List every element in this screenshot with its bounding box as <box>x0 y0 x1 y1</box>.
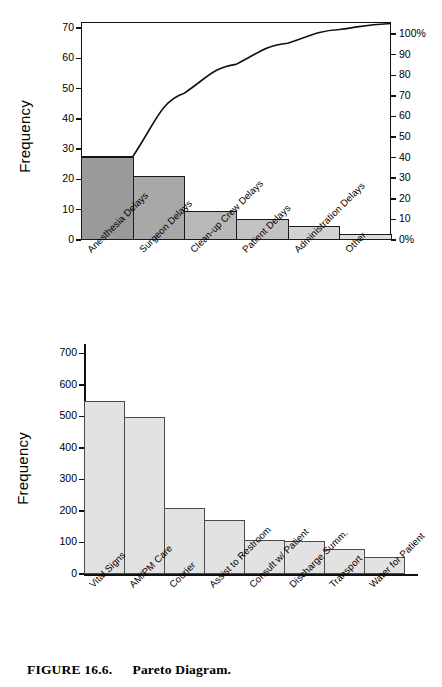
chart2-left-tick-label: 700 <box>42 347 77 357</box>
chart1-right-tick-label: 100% <box>399 28 439 38</box>
chart1-left-tick-label: 10 <box>43 204 74 214</box>
chart1-right-tick-label: 60 <box>399 110 439 120</box>
chart-pareto-nursing-requests: Frequency 0100200300400500600700 Vital S… <box>0 320 442 660</box>
chart-pareto-or-delays: Frequency 010203040506070 0%102030405060… <box>0 0 442 320</box>
chart1-right-tick-mark <box>391 157 396 159</box>
chart1-left-tick-label: 70 <box>43 22 74 32</box>
chart1-right-tick-label: 70 <box>399 90 439 100</box>
chart1-right-tick-label: 0% <box>399 234 439 244</box>
chart2-left-tick-label: 0 <box>42 568 77 578</box>
chart1-right-tick-mark <box>391 95 396 97</box>
chart1-right-tick-mark <box>391 219 396 221</box>
chart2-left-tick-label: 200 <box>42 505 77 515</box>
chart1-y-axis-label: Frequency <box>16 87 33 187</box>
chart1-right-tick-mark <box>391 177 396 179</box>
chart2-left-tick-label: 500 <box>42 410 77 420</box>
chart2-y-axis-label: Frequency <box>14 419 31 519</box>
chart1-left-tick-label: 0 <box>43 234 74 244</box>
chart1-right-tick-label: 40 <box>399 152 439 162</box>
chart2-left-tick-mark <box>79 384 84 386</box>
chart1-left-tick-label: 30 <box>43 143 74 153</box>
figure-caption: FIGURE 16.6. Pareto Diagram. <box>27 662 231 678</box>
chart1-left-tick-label: 40 <box>43 113 74 123</box>
figure-title: Pareto Diagram. <box>132 662 231 677</box>
chart2-left-tick-label: 600 <box>42 379 77 389</box>
pareto-figure: Frequency 010203040506070 0%102030405060… <box>0 0 442 687</box>
chart1-cumulative-curve-path <box>81 24 391 157</box>
chart1-right-tick-label: 80 <box>399 69 439 79</box>
chart1-right-tick-mark <box>391 75 396 77</box>
chart1-right-tick-label: 20 <box>399 193 439 203</box>
chart1-right-tick-label: 90 <box>399 49 439 59</box>
figure-number: FIGURE 16.6. <box>27 662 112 677</box>
chart2-left-tick-label: 100 <box>42 536 77 546</box>
chart1-left-tick-label: 20 <box>43 173 74 183</box>
chart1-right-tick-mark <box>391 33 396 35</box>
chart2-left-tick-mark <box>79 353 84 355</box>
chart1-left-tick-label: 50 <box>43 83 74 93</box>
chart1-right-tick-mark <box>391 54 396 56</box>
chart1-right-tick-label: 50 <box>399 131 439 141</box>
chart2-bar <box>84 401 125 574</box>
chart1-right-tick-mark <box>391 136 396 138</box>
chart1-right-tick-label: 10 <box>399 213 439 223</box>
chart1-right-tick-mark <box>391 198 396 200</box>
chart2-left-tick-label: 400 <box>42 442 77 452</box>
chart1-right-tick-label: 30 <box>399 172 439 182</box>
chart2-left-tick-label: 300 <box>42 473 77 483</box>
chart1-right-tick-mark <box>391 116 396 118</box>
chart1-left-tick-label: 60 <box>43 52 74 62</box>
